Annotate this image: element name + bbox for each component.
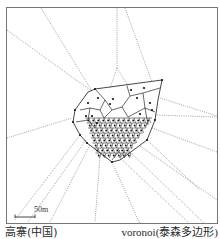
sample-point — [123, 155, 125, 157]
sample-point — [95, 130, 97, 132]
sample-point — [132, 120, 134, 122]
sample-point — [85, 115, 87, 117]
voronoi-cell-edge — [116, 123, 118, 128]
voronoi-cell-edge — [122, 96, 130, 107]
voronoi-cell-edge — [136, 123, 138, 128]
voronoi-cells — [76, 86, 160, 160]
voronoi-figure: 50m 高寨(中国) voronoi(泰森多边形) — [0, 0, 220, 239]
voronoi-cell-edge — [109, 118, 111, 123]
sample-point — [135, 130, 137, 132]
sample-point — [108, 155, 110, 157]
sample-point — [140, 130, 142, 132]
sample-point — [129, 125, 131, 127]
sample-point — [142, 120, 144, 122]
sample-point — [72, 121, 74, 123]
voronoi-cell-edge — [92, 128, 94, 133]
sample-point — [127, 120, 129, 122]
voronoi-ray — [112, 162, 140, 224]
voronoi-cell-edge — [135, 138, 137, 143]
voronoi-cell-edge — [76, 120, 88, 122]
voronoi-cell-edge — [130, 93, 143, 96]
sample-point — [130, 89, 132, 91]
voronoi-cell-edge — [125, 138, 127, 143]
voronoi-cell-edge — [115, 138, 117, 143]
sample-point — [125, 130, 127, 132]
voronoi-cell-edge — [105, 138, 107, 143]
voronoi-ray — [160, 98, 217, 116]
scale-bar — [15, 215, 35, 219]
voronoi-cell-edge — [110, 138, 112, 143]
voronoi-cell-edge — [126, 123, 128, 128]
sample-point — [101, 150, 103, 152]
sample-point — [113, 140, 115, 142]
sample-point — [103, 140, 105, 142]
sample-point — [149, 102, 151, 104]
voronoi-cell-edge — [122, 128, 124, 133]
voronoi-cell-edge — [95, 138, 97, 143]
sample-point — [87, 102, 89, 104]
sample-point — [117, 135, 119, 137]
voronoi-cell-edge — [99, 118, 101, 123]
sample-point — [90, 130, 92, 132]
voronoi-cell-edge — [106, 123, 108, 128]
voronoi-ray — [117, 68, 128, 86]
voronoi-cell-edge — [145, 108, 155, 112]
voronoi-cell-edge — [129, 133, 131, 138]
voronoi-cell-edge — [107, 143, 109, 148]
voronoi-ray — [7, 30, 76, 80]
voronoi-cell-edge — [128, 148, 130, 153]
sample-point — [130, 145, 132, 147]
voronoi-cell-edge — [122, 143, 124, 148]
sample-point — [107, 120, 109, 122]
voronoi-ray — [110, 68, 117, 88]
voronoi-cell-edge — [109, 133, 111, 138]
sample-point — [100, 145, 102, 147]
voronoi-cell-edge — [134, 133, 136, 138]
voronoi-cell-edge — [139, 118, 141, 123]
sample-point — [92, 120, 94, 122]
voronoi-cell-edge — [104, 118, 106, 123]
sample-points — [72, 79, 163, 163]
voronoi-ray — [140, 146, 217, 200]
voronoi-ray — [125, 8, 152, 82]
sample-point — [93, 140, 95, 142]
sample-point — [111, 161, 113, 163]
voronoi-cell-edge — [99, 133, 101, 138]
sample-point — [118, 140, 120, 142]
voronoi-cell-edge — [137, 128, 139, 133]
voronoi-cell-edge — [119, 133, 121, 138]
sample-point — [79, 134, 81, 136]
voronoi-cell-edge — [101, 123, 103, 128]
voronoi-cell-edge — [128, 108, 145, 117]
voronoi-cell-edge — [112, 143, 114, 148]
voronoi-cell-edge — [97, 143, 99, 148]
sample-point — [110, 130, 112, 132]
voronoi-cell-edge — [120, 138, 122, 143]
sample-point — [154, 119, 156, 121]
voronoi-cell-edge — [130, 153, 132, 158]
sample-point — [109, 103, 111, 105]
voronoi-ray — [95, 156, 100, 222]
sample-point — [119, 125, 121, 127]
sample-point — [96, 122, 98, 124]
site-name-caption: 高寨(中国) — [5, 226, 58, 239]
voronoi-cell-edge — [121, 123, 123, 128]
voronoi-cell-edge — [117, 128, 119, 133]
voronoi-cell-edge — [110, 153, 112, 158]
sample-point — [120, 130, 122, 132]
sample-point — [112, 120, 114, 122]
sample-point — [124, 125, 126, 127]
sample-point — [143, 87, 145, 89]
sample-point — [74, 109, 76, 111]
voronoi-cell-edge — [149, 118, 151, 123]
sample-point — [147, 120, 149, 122]
voronoi-cell-edge — [132, 128, 134, 133]
voronoi-cell-edge — [80, 108, 90, 110]
sample-point — [112, 98, 114, 100]
voronoi-cell-edge — [114, 118, 116, 123]
voronoi-cell-edge — [134, 118, 136, 123]
voronoi-ray — [155, 115, 217, 117]
voronoi-cell-edge — [127, 143, 129, 148]
sample-point — [103, 155, 105, 157]
sample-point — [151, 109, 153, 111]
